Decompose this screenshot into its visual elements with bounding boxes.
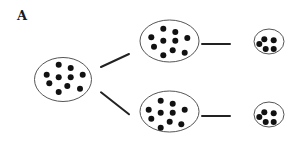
edge-root-to-lower-middle [101, 92, 129, 114]
node-upper-right [254, 29, 284, 54]
dot [56, 74, 62, 80]
edge-root-to-upper-middle [101, 54, 129, 67]
dot [170, 47, 176, 53]
dot [172, 38, 178, 44]
node-outline [140, 20, 199, 62]
dot [167, 119, 173, 125]
dot [77, 86, 83, 92]
dot [158, 110, 164, 116]
dot [64, 83, 70, 89]
dot [56, 62, 62, 68]
dot [178, 121, 184, 127]
dot [271, 46, 277, 52]
dot [170, 110, 176, 116]
nodes-group [35, 20, 285, 132]
dot [261, 36, 267, 42]
node-lower-right [254, 102, 284, 127]
dot [160, 38, 166, 44]
dot [256, 41, 262, 47]
dot [158, 125, 164, 131]
node-upper-middle [140, 20, 199, 62]
dot [44, 72, 50, 78]
dot [271, 110, 277, 116]
dot [271, 119, 277, 125]
dot [256, 114, 262, 120]
dot [184, 35, 190, 41]
node-lower-middle [140, 91, 199, 132]
dot [151, 44, 157, 50]
dot [68, 74, 74, 80]
dot [148, 116, 154, 122]
node-root [35, 58, 92, 102]
dot [46, 80, 52, 86]
dot [263, 46, 269, 52]
dot [68, 65, 74, 71]
dot [261, 109, 267, 115]
dot [56, 89, 62, 95]
dot [146, 107, 152, 113]
node-outline [35, 58, 92, 102]
dot [160, 26, 166, 32]
dot [160, 52, 166, 58]
dot [263, 119, 269, 125]
dot [182, 50, 188, 56]
dot [80, 72, 86, 78]
dot [158, 98, 164, 104]
dot [182, 107, 188, 113]
tree-diagram [0, 0, 306, 147]
dot [172, 29, 178, 35]
dot [148, 34, 154, 40]
dot [170, 101, 176, 107]
dot [271, 37, 277, 43]
